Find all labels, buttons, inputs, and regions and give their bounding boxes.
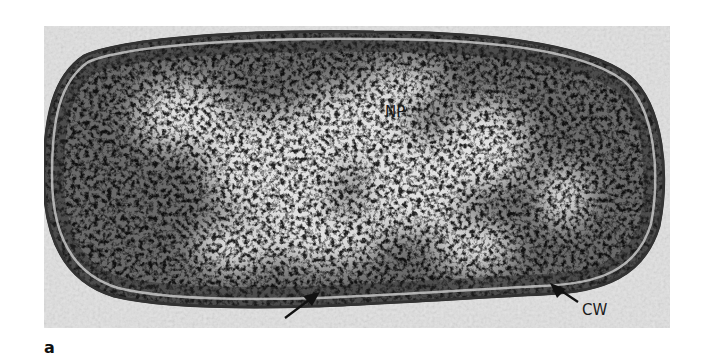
nucleoid-label: NP xyxy=(385,105,405,120)
arrow-icon xyxy=(550,283,578,302)
panel-label: a xyxy=(44,340,55,356)
arrow-icon xyxy=(285,292,320,318)
cell-wall-label: CW xyxy=(582,303,607,318)
